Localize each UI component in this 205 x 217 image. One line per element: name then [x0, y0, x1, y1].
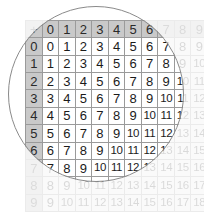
- sum-cell-2-0: 2: [42, 73, 59, 90]
- sum-cell-9-0: 9: [42, 194, 59, 211]
- sum-cell-8-7: 15: [158, 177, 175, 194]
- sum-cell-9-7: 16: [158, 194, 175, 211]
- sum-cell-7-8: 15: [174, 159, 191, 176]
- sum-cell-5-0: 5: [42, 125, 59, 142]
- sum-cell-9-9: 18: [191, 194, 204, 211]
- sum-cell-3-0: 3: [42, 90, 59, 107]
- sum-cell-3-3: 6: [92, 90, 109, 107]
- table-row: 99101112131415161718: [26, 194, 205, 211]
- sum-cell-7-3: 10: [92, 159, 109, 176]
- sum-cell-6-6: 12: [141, 142, 158, 159]
- row-header-7: 7: [26, 159, 43, 176]
- sum-cell-6-0: 6: [42, 142, 59, 159]
- sum-cell-7-4: 11: [108, 159, 125, 176]
- sum-cell-8-5: 13: [125, 177, 142, 194]
- sum-cell-7-1: 8: [59, 159, 76, 176]
- sum-cell-1-0: 1: [42, 55, 59, 72]
- sum-cell-4-6: 10: [141, 107, 158, 124]
- sum-cell-3-7: 10: [158, 90, 175, 107]
- sum-cell-6-4: 10: [108, 142, 125, 159]
- table-row: 33456789101112: [26, 90, 205, 107]
- sum-cell-6-2: 8: [75, 142, 92, 159]
- sum-cell-1-6: 7: [141, 55, 158, 72]
- sum-cell-8-8: 16: [174, 177, 191, 194]
- sum-cell-4-0: 4: [42, 107, 59, 124]
- column-header-1: 1: [59, 21, 76, 38]
- sum-cell-6-8: 14: [174, 142, 191, 159]
- sum-cell-5-9: 14: [191, 125, 204, 142]
- sum-cell-0-2: 2: [75, 38, 92, 55]
- sum-cell-9-5: 14: [125, 194, 142, 211]
- table-row: 445678910111213: [26, 107, 205, 124]
- sum-cell-1-2: 3: [75, 55, 92, 72]
- sum-cell-8-9: 17: [191, 177, 204, 194]
- sum-cell-3-5: 8: [125, 90, 142, 107]
- sum-cell-1-9: 10: [191, 55, 204, 72]
- sum-cell-5-1: 6: [59, 125, 76, 142]
- sum-cell-6-5: 11: [125, 142, 142, 159]
- row-header-2: 2: [26, 73, 43, 90]
- sum-cell-5-4: 9: [108, 125, 125, 142]
- column-header-5: 5: [125, 21, 142, 38]
- sum-cell-1-1: 2: [59, 55, 76, 72]
- sum-cell-5-2: 7: [75, 125, 92, 142]
- sum-cell-1-4: 5: [108, 55, 125, 72]
- sum-cell-2-3: 5: [92, 73, 109, 90]
- sum-cell-0-0: 0: [42, 38, 59, 55]
- sum-cell-9-1: 10: [59, 194, 76, 211]
- sum-cell-4-2: 6: [75, 107, 92, 124]
- sum-cell-5-6: 11: [141, 125, 158, 142]
- sum-cell-5-5: 10: [125, 125, 142, 142]
- sum-cell-2-4: 6: [108, 73, 125, 90]
- sum-cell-3-9: 12: [191, 90, 204, 107]
- sum-cell-9-2: 11: [75, 194, 92, 211]
- sum-cell-7-2: 9: [75, 159, 92, 176]
- sum-cell-4-5: 9: [125, 107, 142, 124]
- sum-cell-0-3: 3: [92, 38, 109, 55]
- sum-cell-3-4: 7: [108, 90, 125, 107]
- sum-cell-2-7: 9: [158, 73, 175, 90]
- sum-cell-0-1: 1: [59, 38, 76, 55]
- sum-cell-0-6: 6: [141, 38, 158, 55]
- sum-cell-4-4: 8: [108, 107, 125, 124]
- column-header-8: 8: [174, 21, 191, 38]
- sum-cell-3-6: 9: [141, 90, 158, 107]
- sum-cell-4-1: 5: [59, 107, 76, 124]
- sum-cell-1-3: 4: [92, 55, 109, 72]
- row-header-5: 5: [26, 125, 43, 142]
- sum-cell-4-9: 13: [191, 107, 204, 124]
- sum-cell-1-7: 8: [158, 55, 175, 72]
- row-header-0: 0: [26, 38, 43, 55]
- row-header-4: 4: [26, 107, 43, 124]
- column-header-4: 4: [108, 21, 125, 38]
- sum-cell-8-1: 9: [59, 177, 76, 194]
- sum-cell-0-4: 4: [108, 38, 125, 55]
- sum-cell-2-1: 3: [59, 73, 76, 90]
- sum-cell-2-9: 11: [191, 73, 204, 90]
- sum-cell-4-3: 7: [92, 107, 109, 124]
- row-header-1: 1: [26, 55, 43, 72]
- addition-table-layer: +012345678900123456789112345678910223456…: [25, 20, 196, 200]
- sum-cell-2-5: 7: [125, 73, 142, 90]
- sum-cell-1-5: 6: [125, 55, 142, 72]
- figure-canvas: +012345678900123456789112345678910223456…: [0, 0, 204, 217]
- sum-cell-9-8: 17: [174, 194, 191, 211]
- sum-cell-6-3: 9: [92, 142, 109, 159]
- sum-cell-0-5: 5: [125, 38, 142, 55]
- row-header-8: 8: [26, 177, 43, 194]
- column-header-9: 9: [191, 21, 204, 38]
- column-header-2: 2: [75, 21, 92, 38]
- sum-cell-2-2: 4: [75, 73, 92, 90]
- table-row: 2234567891011: [26, 73, 205, 90]
- sum-cell-3-1: 4: [59, 90, 76, 107]
- sum-cell-6-1: 7: [59, 142, 76, 159]
- row-header-9: 9: [26, 194, 43, 211]
- sum-cell-9-4: 13: [108, 194, 125, 211]
- sum-cell-7-9: 16: [191, 159, 204, 176]
- sum-cell-9-3: 12: [92, 194, 109, 211]
- column-header-0: 0: [42, 21, 59, 38]
- sum-cell-8-0: 8: [42, 177, 59, 194]
- sum-cell-0-8: 8: [174, 38, 191, 55]
- sum-cell-5-3: 8: [92, 125, 109, 142]
- sum-cell-6-9: 15: [191, 142, 204, 159]
